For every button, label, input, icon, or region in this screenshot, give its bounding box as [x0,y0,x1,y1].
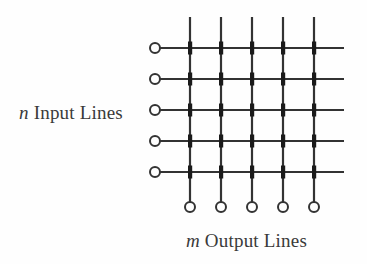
input-terminal-1[interactable] [150,43,160,53]
crosspoint-r1c3[interactable] [250,42,254,55]
crosspoint-r2c1[interactable] [188,73,192,86]
crosspoint-r3c3[interactable] [250,104,254,117]
crosspoint-r3c1[interactable] [188,104,192,117]
output-lines-label: m Output Lines [186,230,307,252]
crosspoint-r2c4[interactable] [281,73,285,86]
crosspoint-r2c3[interactable] [250,73,254,86]
crosspoint-r4c1[interactable] [188,135,192,148]
crosspoint-r3c5[interactable] [312,104,316,117]
crosspoint-r5c3[interactable] [250,166,254,179]
output-count-variable: m [186,230,200,251]
crosspoint-r2c5[interactable] [312,73,316,86]
input-count-variable: n [19,102,29,123]
output-terminal-3[interactable] [247,202,257,212]
output-terminal-5[interactable] [309,202,319,212]
output-terminal-2[interactable] [216,202,226,212]
output-lines-label-text: Output Lines [200,230,307,251]
crosspoint-r1c1[interactable] [188,42,192,55]
output-terminal-1[interactable] [185,202,195,212]
input-terminal-2[interactable] [150,74,160,84]
crosspoint-r5c4[interactable] [281,166,285,179]
crosspoint-r1c2[interactable] [219,42,223,55]
input-terminal-4[interactable] [150,136,160,146]
output-terminal-4[interactable] [278,202,288,212]
crosspoint-r3c4[interactable] [281,104,285,117]
crosspoint-r5c5[interactable] [312,166,316,179]
crosspoint-r1c4[interactable] [281,42,285,55]
crosspoint-r4c3[interactable] [250,135,254,148]
crossbar-switch-figure: n Input Lines m Output Lines [0,0,367,264]
crosspoint-r3c2[interactable] [219,104,223,117]
crosspoint-r5c1[interactable] [188,166,192,179]
crosspoint-r4c4[interactable] [281,135,285,148]
input-lines-label-text: Input Lines [29,102,123,123]
crosspoint-r1c5[interactable] [312,42,316,55]
input-terminal-5[interactable] [150,167,160,177]
crosspoint-r5c2[interactable] [219,166,223,179]
crosspoint-r2c2[interactable] [219,73,223,86]
crosspoint-r4c2[interactable] [219,135,223,148]
output-terminals-group [185,202,319,212]
input-terminal-3[interactable] [150,105,160,115]
input-terminals-group [150,43,160,177]
input-lines-label: n Input Lines [19,102,123,124]
crossbar-switch-graphic [0,0,367,264]
crosspoint-r4c5[interactable] [312,135,316,148]
